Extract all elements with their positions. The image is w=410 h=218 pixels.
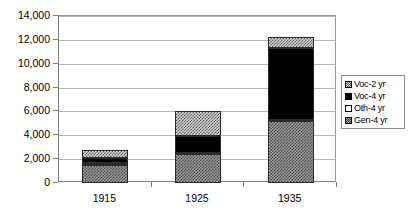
legend-swatch-icon [345, 93, 352, 100]
y-axis-tick-mark [53, 134, 58, 135]
bar-segment [82, 163, 128, 165]
legend-item-label: Voc-4 yr [354, 91, 385, 101]
bar-segment [268, 48, 314, 120]
x-axis-tick-mark [151, 182, 152, 187]
y-axis-tick-label: 6,000 [0, 105, 50, 116]
y-axis-tick-label: 10,000 [0, 57, 50, 68]
bar-group [175, 16, 221, 183]
bar-segment [268, 121, 314, 183]
y-axis-tick-mark [53, 87, 58, 88]
bar-segment [82, 158, 128, 163]
bar-segment [175, 153, 221, 155]
legend-item: Oth-4 yr [345, 102, 402, 114]
y-axis-tick-label: 14,000 [0, 10, 50, 21]
bar-segment [268, 120, 314, 122]
stacked-bar-chart: 02,0004,0006,0008,00010,00012,00014,000 … [0, 0, 410, 218]
plot-area [58, 15, 336, 182]
bar-group [82, 16, 128, 183]
legend-item: Voc-2 yr [345, 78, 402, 90]
legend-item-label: Gen-4 yr [354, 115, 387, 125]
y-axis-tick-mark [53, 39, 58, 40]
bar-segment [268, 37, 314, 48]
bar-segment [175, 111, 221, 136]
y-axis-tick-mark [53, 15, 58, 16]
y-axis-tick-label: 12,000 [0, 33, 50, 44]
legend-item: Voc-4 yr [345, 90, 402, 102]
legend-item-label: Oth-4 yr [354, 103, 385, 113]
bar-segment [175, 136, 221, 152]
legend-item: Gen-4 yr [345, 114, 402, 126]
x-axis-tick-label: 1925 [157, 192, 237, 204]
y-axis-tick-mark [53, 158, 58, 159]
y-axis-tick-label: 0 [0, 177, 50, 188]
bar-segment [82, 165, 128, 183]
y-axis-tick-label: 4,000 [0, 129, 50, 140]
legend-swatch-icon [345, 81, 352, 88]
y-axis-tick-mark [53, 110, 58, 111]
y-axis-tick-mark [53, 182, 58, 183]
legend-swatch-icon [345, 105, 352, 112]
legend-swatch-icon [345, 117, 352, 124]
x-axis-tick-label: 1915 [64, 192, 144, 204]
bar-group [268, 16, 314, 183]
y-axis-tick-mark [53, 63, 58, 64]
x-axis-tick-label: 1935 [250, 192, 330, 204]
x-axis-tick-mark [336, 182, 337, 187]
legend-item-label: Voc-2 yr [354, 79, 385, 89]
bar-segment [175, 154, 221, 183]
bar-segment [82, 150, 128, 158]
y-axis-tick-label: 2,000 [0, 153, 50, 164]
y-axis-tick-label: 8,000 [0, 81, 50, 92]
chart-legend: Voc-2 yrVoc-4 yrOth-4 yrGen-4 yr [341, 75, 405, 129]
x-axis-tick-mark [243, 182, 244, 187]
